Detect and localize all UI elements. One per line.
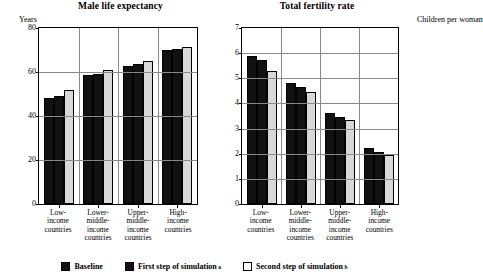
bar-group	[281, 28, 320, 204]
x-axis-category-label: Upper-middle-incomecountries	[320, 209, 360, 243]
x-axis-category-label: Upper-middle-incomecountries	[118, 209, 158, 243]
chart-legend: BaselineFirst step of simulationaSecond …	[0, 262, 409, 271]
legend-footnote-marker: a	[218, 264, 221, 270]
bar-left-g0-s0	[44, 98, 54, 204]
bar-right-g3-s0	[364, 148, 374, 204]
y-axis-unit-right: Children per woman	[417, 15, 483, 24]
bar-left-g2-s2	[143, 61, 153, 204]
gridline	[242, 154, 398, 155]
y-axis-tick-mark	[239, 154, 242, 155]
y-axis-tick-mark	[239, 204, 242, 205]
bar-group	[359, 28, 398, 204]
gridline	[39, 116, 197, 117]
y-axis-tick-mark	[239, 78, 242, 79]
y-axis-tick-label-left: 80	[28, 24, 36, 32]
bar-right-g2-s2	[345, 120, 355, 204]
bar-left-g2-s1	[133, 64, 143, 204]
x-axis-categories-left: Low-incomecountriesLower-middle-incomeco…	[38, 209, 198, 243]
legend-label: First step of simulation	[138, 262, 217, 271]
gridline	[39, 72, 197, 73]
y-axis-tick-mark	[36, 160, 39, 161]
plot-area-left: 020406080	[38, 27, 198, 205]
x-axis-category-label: Low-incomecountries	[38, 209, 78, 243]
y-axis-tick-mark	[239, 179, 242, 180]
y-axis-tick-mark	[36, 204, 39, 205]
chart-title-right: Total fertility rate	[205, 1, 419, 11]
bar-right-g2-s0	[325, 113, 335, 204]
bar-group	[320, 28, 359, 204]
legend-item-2: First step of simulationa	[125, 262, 221, 271]
bar-left-g1-s2	[103, 70, 113, 204]
gridline	[242, 53, 398, 54]
panel-male-life-expectancy: Male life expectancy Years 020406080 Low…	[0, 0, 205, 253]
chart-title-left: Male life expectancy	[0, 1, 223, 11]
bar-left-g0-s2	[64, 90, 74, 204]
bar-right-g0-s1	[257, 60, 267, 204]
x-axis-categories-right: Low-incomecountriesLower-middle-incomeco…	[241, 209, 399, 243]
bar-left-g0-s1	[54, 96, 64, 204]
y-axis-tick-mark	[36, 116, 39, 117]
gridline	[39, 160, 197, 161]
y-axis-tick-mark	[239, 53, 242, 54]
x-axis-category-label: Lower-middle-incomecountries	[78, 209, 118, 243]
legend-label: Baseline	[74, 262, 102, 271]
bar-left-g1-s0	[83, 75, 93, 204]
legend-swatch-icon	[61, 262, 70, 271]
plot-area-right: 01234567	[241, 27, 399, 205]
bar-left-g2-s0	[123, 66, 133, 204]
y-axis-tick-mark	[239, 28, 242, 29]
y-axis-tick-label-left: 60	[28, 68, 36, 76]
legend-swatch-icon	[125, 262, 134, 271]
bar-left-g1-s1	[93, 74, 103, 204]
legend-item-3: Second step of simulationb	[243, 262, 347, 271]
bar-right-g1-s2	[306, 92, 316, 204]
y-axis-tick-label-left: 20	[28, 156, 36, 164]
y-axis-tick-mark	[36, 72, 39, 73]
y-axis-tick-mark	[239, 103, 242, 104]
legend-swatch-icon	[243, 262, 252, 271]
x-axis-category-label: Low-incomecountries	[241, 209, 281, 243]
bar-group	[242, 28, 281, 204]
bar-left-g3-s0	[162, 50, 172, 204]
gridline	[242, 78, 398, 79]
legend-item-1: Baseline	[61, 262, 102, 271]
panel-total-fertility-rate: Total fertility rate Children per woman …	[205, 0, 409, 253]
y-axis-tick-label-left: 40	[28, 112, 36, 120]
legend-footnote-marker: b	[344, 264, 347, 270]
bar-right-g0-s2	[267, 71, 277, 204]
legend-label: Second step of simulation	[256, 262, 343, 271]
bar-groups-right	[242, 28, 398, 204]
bar-right-g1-s0	[286, 83, 296, 204]
y-axis-tick-mark	[239, 129, 242, 130]
x-axis-category-label: High-incomecountries	[360, 209, 400, 243]
x-axis-category-label: Lower-middle-incomecountries	[281, 209, 321, 243]
gridline	[242, 103, 398, 104]
gridline	[242, 179, 398, 180]
bar-left-g3-s2	[182, 47, 192, 204]
x-axis-category-label: High-incomecountries	[158, 209, 198, 243]
bar-right-g2-s1	[335, 117, 345, 204]
y-axis-tick-mark	[36, 28, 39, 29]
gridline	[242, 129, 398, 130]
